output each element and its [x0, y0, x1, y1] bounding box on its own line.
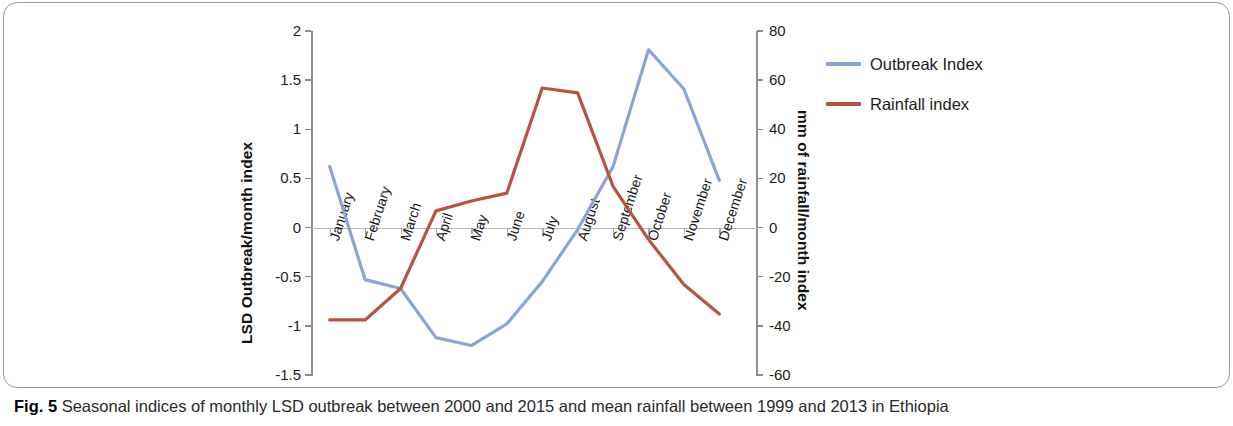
legend-label-rainfall-index: Rainfall index	[870, 95, 969, 114]
left-tick	[305, 129, 311, 130]
right-tick-label: -60	[769, 367, 829, 382]
left-tick	[305, 30, 311, 31]
right-tick	[757, 374, 763, 375]
right-tick-label: 60	[769, 72, 829, 87]
figure-caption-text: Seasonal indices of monthly LSD outbreak…	[57, 397, 949, 415]
plot-area	[312, 31, 737, 375]
legend-item-outbreak-index: Outbreak Index	[826, 44, 1076, 84]
right-tick	[757, 227, 763, 228]
right-tick	[757, 30, 763, 31]
left-tick	[305, 79, 311, 80]
right-tick	[757, 129, 763, 130]
left-tick-label: 1.5	[241, 72, 301, 87]
right-tick	[757, 276, 763, 277]
left-tick	[305, 227, 311, 228]
legend-item-rainfall-index: Rainfall index	[826, 84, 1076, 124]
left-tick-label: 2	[241, 23, 301, 38]
legend-label-outbreak-index: Outbreak Index	[870, 55, 983, 74]
figure-caption: Fig. 5 Seasonal indices of monthly LSD o…	[14, 396, 1224, 417]
right-tick	[757, 79, 763, 80]
figure-caption-label: Fig. 5	[14, 397, 57, 415]
series-lines	[312, 31, 737, 375]
left-tick	[305, 374, 311, 375]
right-axis-title: mm of rainfall/month index	[794, 110, 812, 311]
left-tick-label: -1.5	[241, 367, 301, 382]
figure-page: -1.5-1-0.500.511.52 -60-40-20020406080 J…	[0, 0, 1233, 426]
left-tick	[305, 325, 311, 326]
legend-swatch-outbreak-index	[826, 62, 861, 65]
left-tick-label: 1	[241, 121, 301, 136]
right-tick	[757, 325, 763, 326]
left-axis-title: LSD Outbreak/month index	[238, 142, 256, 344]
left-tick	[305, 178, 311, 179]
legend-swatch-rainfall-index	[826, 102, 861, 105]
left-tick	[305, 276, 311, 277]
right-tick-label: 80	[769, 23, 829, 38]
chart-legend: Outbreak Index Rainfall index	[826, 44, 1076, 124]
right-tick	[757, 178, 763, 179]
right-tick-label: -40	[769, 318, 829, 333]
